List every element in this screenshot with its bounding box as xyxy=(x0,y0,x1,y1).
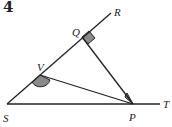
segment-v-p xyxy=(40,75,133,104)
label-q: Q xyxy=(72,26,80,38)
segment-q-p xyxy=(82,37,133,104)
line-s-r xyxy=(7,13,111,104)
label-r: R xyxy=(113,6,121,18)
label-p: P xyxy=(128,111,136,123)
label-t: T xyxy=(163,98,170,110)
label-s: S xyxy=(3,112,9,124)
geometry-diagram: Q R V S P T xyxy=(0,0,172,127)
